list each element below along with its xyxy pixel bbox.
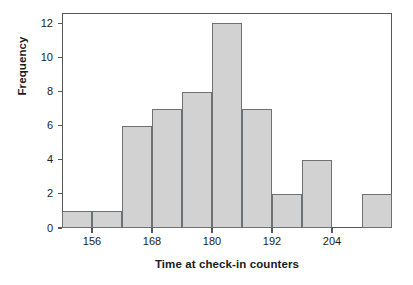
x-tick-label: 204 (309, 236, 355, 247)
histogram-bar (182, 92, 212, 229)
y-tick-label: 2 (25, 188, 53, 199)
y-tick-label: 0 (25, 223, 53, 234)
x-tick-mark (271, 228, 272, 233)
histogram-bar (212, 23, 242, 228)
x-tick-mark (211, 228, 212, 233)
histogram-bar (242, 109, 272, 228)
x-tick-label: 156 (69, 236, 115, 247)
histogram-bar (302, 160, 332, 228)
x-tick-mark (331, 228, 332, 233)
y-tick-label: 8 (25, 86, 53, 97)
y-tick-label: 10 (25, 52, 53, 63)
x-tick-label: 168 (129, 236, 175, 247)
y-tick-label: 6 (25, 120, 53, 131)
histogram-bar (62, 211, 92, 228)
x-tick-mark (91, 228, 92, 233)
bars-layer (62, 13, 392, 228)
histogram-bar (272, 194, 302, 228)
x-tick-mark (151, 228, 152, 233)
x-tick-label: 180 (189, 236, 235, 247)
x-tick-label: 192 (249, 236, 295, 247)
y-tick-label: 4 (25, 154, 53, 165)
x-axis-title: Time at check-in counters (62, 258, 392, 270)
histogram-bar (92, 211, 122, 228)
histogram-bar (152, 109, 182, 228)
histogram-figure: Frequency 024681012 156168180192204 Time… (0, 0, 413, 285)
histogram-bar (362, 194, 392, 228)
histogram-bar (122, 126, 152, 228)
y-axis-title: Frequency (16, 0, 28, 136)
y-tick-label: 12 (25, 18, 53, 29)
